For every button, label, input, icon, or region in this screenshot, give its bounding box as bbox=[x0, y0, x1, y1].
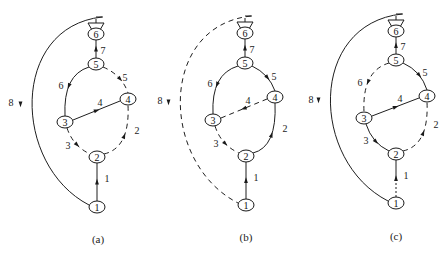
edge-8 bbox=[317, 14, 402, 201]
edge-label-5: 5 bbox=[272, 71, 277, 82]
edge-3 bbox=[366, 124, 389, 151]
panel-caption-b: (b) bbox=[240, 231, 253, 244]
edge-label-8: 8 bbox=[158, 95, 163, 106]
node-3: 3 bbox=[205, 114, 221, 126]
node-label: 6 bbox=[243, 28, 248, 39]
node-label: 5 bbox=[94, 59, 99, 70]
node-label: 2 bbox=[394, 149, 399, 160]
edge-6 bbox=[65, 67, 89, 116]
edge-label-7: 7 bbox=[101, 45, 106, 56]
arrowhead-icon bbox=[167, 99, 171, 105]
node-2: 2 bbox=[388, 148, 404, 160]
node-1: 1 bbox=[388, 197, 404, 209]
panel-caption-a: (a) bbox=[92, 233, 105, 246]
panel-a: 12345678123456(a) bbox=[9, 17, 140, 246]
arrowhead-icon bbox=[216, 81, 220, 87]
node-6: 6 bbox=[388, 25, 404, 37]
node-label: 5 bbox=[243, 58, 248, 69]
edge-label-1: 1 bbox=[254, 172, 259, 183]
node-1: 1 bbox=[89, 201, 105, 213]
node-4: 4 bbox=[419, 90, 435, 102]
arrowhead-icon bbox=[317, 97, 321, 103]
arrowhead-icon bbox=[222, 140, 227, 145]
arrowhead-icon bbox=[269, 132, 273, 138]
edge-4 bbox=[372, 98, 419, 116]
node-label: 4 bbox=[126, 94, 131, 105]
edge-label-2: 2 bbox=[283, 123, 288, 134]
edge-7 bbox=[243, 39, 247, 57]
edge-label-3: 3 bbox=[66, 140, 71, 151]
edge-6 bbox=[364, 63, 389, 112]
graph-figure: 12345678123456(a)12345678123456(b)123456… bbox=[0, 0, 448, 255]
arrowhead-icon bbox=[117, 76, 122, 82]
edge-label-4: 4 bbox=[398, 93, 403, 104]
node-2: 2 bbox=[89, 151, 105, 163]
edge-label-3: 3 bbox=[364, 135, 369, 146]
edge-label-8: 8 bbox=[309, 94, 314, 105]
edge-6 bbox=[213, 66, 238, 114]
edge-label-5: 5 bbox=[423, 67, 428, 78]
node-label: 2 bbox=[244, 151, 249, 162]
arrowhead-icon bbox=[420, 130, 424, 136]
arrowhead-icon bbox=[95, 179, 99, 185]
arrowhead-icon bbox=[68, 83, 72, 89]
edge-8 bbox=[19, 17, 102, 205]
edge-1 bbox=[394, 160, 398, 197]
edge-2 bbox=[403, 102, 427, 151]
arrowhead-icon bbox=[367, 79, 371, 85]
edge-8 bbox=[167, 16, 251, 203]
node-5: 5 bbox=[388, 54, 404, 66]
edge-4 bbox=[221, 99, 267, 118]
edge-label-1: 1 bbox=[404, 170, 409, 181]
node-label: 1 bbox=[244, 200, 249, 211]
edge-label-2: 2 bbox=[135, 125, 140, 136]
node-4: 4 bbox=[267, 91, 283, 103]
edge-2 bbox=[104, 105, 128, 154]
panel-c: 12345678123456(c) bbox=[309, 14, 439, 243]
node-label: 6 bbox=[394, 26, 399, 37]
arrowhead-icon bbox=[394, 175, 398, 181]
node-label: 3 bbox=[63, 117, 68, 128]
arrowhead-icon bbox=[241, 106, 247, 110]
edge-2 bbox=[253, 103, 275, 153]
arrowhead-icon bbox=[94, 46, 98, 52]
node-5: 5 bbox=[88, 58, 104, 70]
node-label: 6 bbox=[94, 29, 99, 40]
edge-label-7: 7 bbox=[250, 44, 255, 55]
node-6: 6 bbox=[237, 27, 253, 39]
node-label: 4 bbox=[425, 91, 430, 102]
node-2: 2 bbox=[238, 150, 254, 162]
node-label: 3 bbox=[211, 115, 216, 126]
edge-1 bbox=[244, 162, 248, 199]
panel-b: 12345678123456(b) bbox=[158, 16, 288, 244]
node-label: 3 bbox=[362, 113, 367, 124]
node-4: 4 bbox=[120, 93, 136, 105]
edge-1 bbox=[95, 163, 99, 201]
node-label: 4 bbox=[273, 92, 278, 103]
edge-label-8: 8 bbox=[9, 97, 14, 108]
arrowhead-icon bbox=[93, 109, 99, 113]
node-3: 3 bbox=[57, 116, 73, 128]
edge-label-4: 4 bbox=[98, 97, 103, 108]
arrowhead-icon bbox=[121, 133, 125, 139]
arrowhead-icon bbox=[19, 101, 23, 107]
edge-label-1: 1 bbox=[105, 173, 110, 184]
edge-7 bbox=[394, 37, 398, 54]
edge-label-6: 6 bbox=[59, 80, 64, 91]
node-3: 3 bbox=[356, 112, 372, 124]
arrowhead-icon bbox=[243, 45, 247, 51]
arrowhead-icon bbox=[392, 106, 398, 110]
edge-label-3: 3 bbox=[214, 138, 219, 149]
edge-7 bbox=[94, 40, 98, 58]
arrowhead-icon bbox=[244, 177, 248, 183]
node-label: 5 bbox=[394, 55, 399, 66]
edge-label-6: 6 bbox=[208, 78, 213, 89]
node-label: 1 bbox=[394, 198, 399, 209]
node-label: 1 bbox=[95, 202, 100, 213]
arrowhead-icon bbox=[74, 142, 79, 147]
edge-label-5: 5 bbox=[123, 72, 128, 83]
node-label: 2 bbox=[95, 152, 100, 163]
node-1: 1 bbox=[238, 199, 254, 211]
edge-3 bbox=[215, 126, 239, 153]
node-6: 6 bbox=[88, 28, 104, 40]
